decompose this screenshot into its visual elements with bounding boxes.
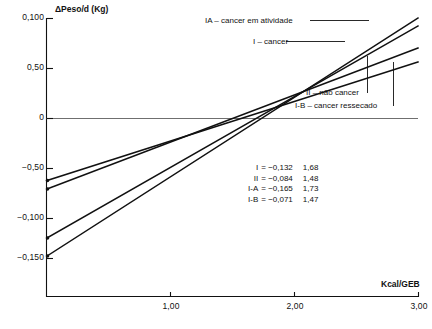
y-axis-title: ΔPeso/d (Kg): [55, 4, 108, 14]
legend-row: II = −0,084 1,48: [248, 174, 318, 185]
legend-value-ii: 1,48: [303, 174, 319, 185]
x-tick-label-200: 2,00: [279, 302, 311, 311]
legend-coef-ib: = −0,071: [261, 195, 303, 206]
legend-coef-i: = −0,132: [261, 163, 303, 174]
series-line-i: [47, 26, 418, 238]
chart-figure: ΔPeso/d (Kg) Kcal/GEB 0,100 0,50 0 −0,50…: [0, 0, 432, 329]
legend-table: I = −0,132 1,68 II = −0,084 1,48 I-A = −…: [248, 163, 318, 205]
legend-name-ia: I-A: [248, 184, 261, 195]
legend-value-i: 1,68: [303, 163, 319, 174]
legend-name-ii: II: [248, 174, 261, 185]
series-origin-marker-i: [46, 236, 50, 240]
legend-value-ia: 1,73: [303, 184, 319, 195]
callout-label-ia: IA – cancer em atividade: [205, 16, 293, 25]
series-origin-marker-ia: [46, 254, 50, 258]
x-tick-label-100: 1,00: [155, 302, 187, 311]
y-tick-label-neg0150: −0,150: [0, 253, 44, 262]
callout-label-i: I – cancer: [253, 37, 288, 46]
series-line-ia: [47, 18, 418, 256]
x-tick-label-300: 3,00: [403, 302, 432, 311]
callout-label-ib: I-B – cancer ressecado: [295, 101, 377, 110]
y-tick-label-0: 0: [0, 113, 44, 122]
legend-name-i: I: [248, 163, 261, 174]
y-tick-label-neg0100: −0,100: [0, 213, 44, 222]
y-tick-label-0100: 0,100: [0, 13, 44, 22]
legend-value-ib: 1,47: [303, 195, 319, 206]
series-line-ib: [47, 62, 418, 181]
chart-canvas: [0, 0, 432, 329]
legend-coef-ii: = −0,084: [261, 174, 303, 185]
legend-row: I-A = −0,165 1,73: [248, 184, 318, 195]
y-tick-label-050: 0,50: [0, 63, 44, 72]
legend-row: I-B = −0,071 1,47: [248, 195, 318, 206]
series-origin-marker-ii: [46, 187, 50, 191]
y-tick-label-neg050: −0,50: [0, 163, 44, 172]
callout-label-ii: II – não cancer: [306, 88, 359, 97]
legend-name-ib: I-B: [248, 195, 261, 206]
series-origin-marker-ib: [46, 179, 50, 183]
legend-coef-ia: = −0,165: [261, 184, 303, 195]
x-axis-title: Kcal/GEB: [381, 279, 420, 289]
legend-row: I = −0,132 1,68: [248, 163, 318, 174]
